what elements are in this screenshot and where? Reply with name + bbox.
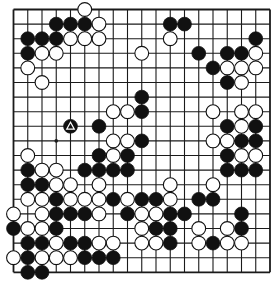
white-stone: [21, 61, 35, 75]
go-board: [0, 0, 275, 293]
white-stone: [21, 222, 35, 236]
black-stone: [206, 192, 220, 206]
white-stone: [64, 251, 78, 265]
black-stone: [21, 236, 35, 250]
black-stone: [7, 222, 21, 236]
white-stone: [149, 236, 163, 250]
black-stone: [163, 17, 177, 31]
white-stone: [106, 236, 120, 250]
white-stone: [135, 222, 149, 236]
star-point: [54, 139, 58, 143]
black-stone: [192, 192, 206, 206]
black-stone: [220, 163, 234, 177]
white-stone: [121, 134, 135, 148]
white-stone: [163, 178, 177, 192]
white-stone: [220, 61, 234, 75]
white-stone: [235, 236, 249, 250]
white-stone: [220, 222, 234, 236]
black-stone: [49, 32, 63, 46]
black-stone: [220, 46, 234, 60]
black-stone: [21, 265, 35, 279]
black-stone: [64, 207, 78, 221]
white-stone: [92, 32, 106, 46]
white-stone: [163, 32, 177, 46]
white-stone: [249, 46, 263, 60]
white-stone: [49, 236, 63, 250]
black-stone: [235, 46, 249, 60]
black-stone: [135, 134, 149, 148]
black-stone: [249, 134, 263, 148]
black-stone: [192, 46, 206, 60]
black-stone: [163, 222, 177, 236]
white-stone: [135, 46, 149, 60]
black-stone: [106, 163, 120, 177]
white-stone: [35, 207, 49, 221]
white-stone: [78, 3, 92, 17]
black-stone: [64, 236, 78, 250]
white-stone: [235, 61, 249, 75]
white-stone: [92, 17, 106, 31]
white-stone: [192, 222, 206, 236]
black-stone: [92, 119, 106, 133]
black-stone: [135, 90, 149, 104]
white-stone: [64, 178, 78, 192]
white-stone: [21, 149, 35, 163]
black-stone: [35, 178, 49, 192]
black-stone: [149, 222, 163, 236]
white-stone: [235, 76, 249, 90]
white-stone: [235, 119, 249, 133]
white-stone: [64, 192, 78, 206]
black-stone: [178, 17, 192, 31]
black-stone: [220, 76, 234, 90]
black-stone: [49, 17, 63, 31]
black-stone: [121, 149, 135, 163]
black-stone: [121, 163, 135, 177]
black-stone: [21, 163, 35, 177]
black-stone: [21, 46, 35, 60]
black-stone: [235, 163, 249, 177]
white-stone: [106, 134, 120, 148]
white-stone: [192, 236, 206, 250]
white-stone: [249, 61, 263, 75]
black-stone: [49, 192, 63, 206]
black-stone: [163, 207, 177, 221]
black-stone: [35, 32, 49, 46]
black-stone: [235, 207, 249, 221]
white-stone: [35, 76, 49, 90]
white-stone: [121, 105, 135, 119]
black-stone: [106, 251, 120, 265]
black-stone: [206, 61, 220, 75]
white-stone: [49, 251, 63, 265]
white-stone: [49, 46, 63, 60]
white-stone: [149, 207, 163, 221]
white-stone: [35, 222, 49, 236]
black-stone: [78, 163, 92, 177]
black-stone: [249, 119, 263, 133]
black-stone: [249, 32, 263, 46]
black-stone: [135, 192, 149, 206]
black-stone: [206, 236, 220, 250]
white-stone: [35, 251, 49, 265]
white-stone: [206, 178, 220, 192]
black-stone: [220, 119, 234, 133]
black-stone: [92, 251, 106, 265]
white-stone: [135, 207, 149, 221]
white-stone: [78, 32, 92, 46]
star-points: [54, 139, 58, 143]
white-stone: [235, 105, 249, 119]
black-stone: [178, 207, 192, 221]
white-stone: [249, 105, 263, 119]
black-stone: [78, 17, 92, 31]
white-stone: [135, 236, 149, 250]
black-stone: [78, 251, 92, 265]
white-stone: [163, 192, 177, 206]
black-stone: [21, 251, 35, 265]
white-stone: [49, 163, 63, 177]
black-stone: [235, 134, 249, 148]
white-stone: [64, 32, 78, 46]
white-stone: [7, 207, 21, 221]
white-stone: [220, 236, 234, 250]
black-stone: [235, 222, 249, 236]
black-stone: [78, 236, 92, 250]
black-stone: [121, 207, 135, 221]
